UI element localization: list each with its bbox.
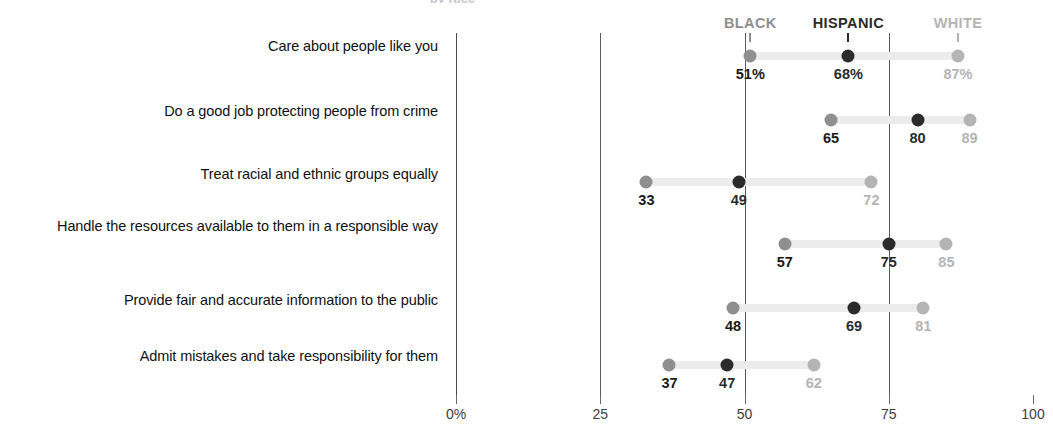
x-axis-tick-label: 25 <box>592 406 608 422</box>
data-value-label: 57 <box>777 254 793 270</box>
data-value-label: 72 <box>863 192 879 208</box>
x-axis-tick <box>456 395 457 404</box>
data-point-white[interactable] <box>963 114 976 127</box>
chart-title-fragment: by race <box>430 0 730 3</box>
data-point-white[interactable] <box>940 238 953 251</box>
data-value-label: 85 <box>938 254 954 270</box>
category-label: Care about people like you <box>8 38 438 56</box>
dot-plot-chart: by race Care about people like youDo a g… <box>0 0 1053 434</box>
data-point-white[interactable] <box>917 302 930 315</box>
data-value-label: 69 <box>846 318 862 334</box>
data-point-hispanic[interactable] <box>721 359 734 372</box>
category-label: Do a good job protecting people from cri… <box>8 103 438 121</box>
x-axis-tick <box>1033 395 1034 404</box>
data-value-label: 48 <box>725 318 741 334</box>
legend-label-black: BLACK <box>724 15 777 31</box>
data-point-black[interactable] <box>663 359 676 372</box>
data-value-label: 87% <box>943 66 972 82</box>
data-point-hispanic[interactable] <box>882 238 895 251</box>
data-value-label: 62 <box>806 375 822 391</box>
data-value-label: 49 <box>731 192 747 208</box>
legend-connector-tick <box>957 33 959 42</box>
data-point-black[interactable] <box>726 302 739 315</box>
x-axis-tick <box>600 395 601 404</box>
data-point-black[interactable] <box>778 238 791 251</box>
category-label: Handle the resources available to them i… <box>8 218 438 236</box>
data-value-label: 75 <box>881 254 897 270</box>
row-connector-band <box>733 304 923 312</box>
row-connector-band <box>785 240 947 248</box>
category-label-column: Care about people like youDo a good job … <box>0 0 448 434</box>
x-axis-tick-label: 75 <box>881 406 897 422</box>
x-axis-tick <box>889 395 890 404</box>
gridline-75 <box>889 33 890 401</box>
gridline-25 <box>600 33 601 401</box>
gridline-50 <box>745 33 746 401</box>
data-value-label: 68% <box>834 66 863 82</box>
category-label: Admit mistakes and take responsibility f… <box>8 348 438 366</box>
data-point-white[interactable] <box>865 176 878 189</box>
data-value-label: 47 <box>719 375 735 391</box>
data-point-hispanic[interactable] <box>842 50 855 63</box>
data-point-hispanic[interactable] <box>848 302 861 315</box>
row-connector-band <box>669 361 813 369</box>
y-axis-line <box>456 33 457 401</box>
x-axis-tick <box>745 395 746 404</box>
data-point-hispanic[interactable] <box>732 176 745 189</box>
row-connector-band <box>646 178 871 186</box>
category-label: Treat racial and ethnic groups equally <box>8 166 438 184</box>
data-value-label: 51% <box>736 66 765 82</box>
legend-label-hispanic: HISPANIC <box>813 15 884 31</box>
x-axis-tick-label: 0% <box>446 406 466 422</box>
data-point-black[interactable] <box>825 114 838 127</box>
data-point-black[interactable] <box>744 50 757 63</box>
data-value-label: 65 <box>823 130 839 146</box>
legend-connector-tick <box>749 33 751 42</box>
data-point-white[interactable] <box>807 359 820 372</box>
data-point-hispanic[interactable] <box>911 114 924 127</box>
legend-connector-tick <box>847 33 849 42</box>
data-point-black[interactable] <box>640 176 653 189</box>
row-connector-band <box>831 116 969 124</box>
data-value-label: 80 <box>910 130 926 146</box>
data-value-label: 81 <box>915 318 931 334</box>
data-point-white[interactable] <box>951 50 964 63</box>
x-axis-tick-label: 50 <box>737 406 753 422</box>
data-value-label: 33 <box>638 192 654 208</box>
data-value-label: 37 <box>661 375 677 391</box>
x-axis-tick-label: 100 <box>1021 406 1044 422</box>
category-label: Provide fair and accurate information to… <box>8 292 438 310</box>
legend-label-white: WHITE <box>934 15 983 31</box>
data-value-label: 89 <box>961 130 977 146</box>
